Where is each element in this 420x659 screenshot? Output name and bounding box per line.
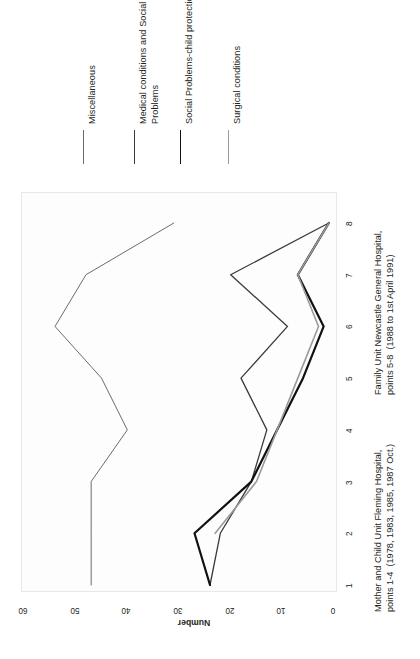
- legend-color-swatch: [134, 130, 135, 164]
- y-axis-tick-label: 20: [219, 606, 241, 615]
- caption-right: Family Unit Newcastle General Hospital, …: [372, 231, 396, 395]
- legend-color-swatch: [83, 130, 84, 164]
- y-axis: Number 0102030405060: [0, 596, 360, 636]
- series-lines: [22, 193, 336, 591]
- y-axis-tick-label: 60: [12, 606, 34, 615]
- legend-item-label: Social Problems-child protection: [184, 0, 196, 124]
- series-line: [215, 223, 329, 533]
- x-axis: 12345678: [337, 192, 367, 592]
- plot-area: [21, 192, 337, 592]
- x-axis-tick-label: 6: [345, 325, 354, 330]
- y-axis-title: Number: [171, 618, 217, 628]
- x-axis-tick-label: 4: [345, 428, 354, 433]
- legend-item-label: Miscellaneous: [87, 65, 99, 124]
- legend-color-swatch: [180, 130, 181, 164]
- x-axis-tick-label: 5: [345, 377, 354, 382]
- x-axis-tick-label: 3: [345, 480, 354, 485]
- x-axis-tick-label: 1: [345, 583, 354, 588]
- series-line: [195, 223, 329, 585]
- y-axis-tick-label: 50: [64, 606, 86, 615]
- y-axis-tick-label: 0: [322, 606, 344, 615]
- x-axis-tick-label: 8: [345, 221, 354, 226]
- chart-legend: MiscellaneousMedical conditions and Soci…: [0, 0, 270, 180]
- caption-left: Mother and Child Unit Fleming Hospital, …: [372, 444, 396, 612]
- legend-item-label: Surgical conditions: [232, 46, 244, 124]
- y-axis-tick-label: 10: [270, 606, 292, 615]
- x-axis-tick-label: 7: [345, 273, 354, 278]
- legend-color-swatch: [228, 130, 229, 164]
- series-line: [210, 223, 329, 585]
- y-axis-tick-label: 30: [167, 606, 189, 615]
- series-line: [55, 223, 174, 585]
- legend-item-label: Medical conditions and Social Problems: [138, 2, 161, 124]
- x-axis-tick-label: 2: [345, 532, 354, 537]
- y-axis-tick-label: 40: [115, 606, 137, 615]
